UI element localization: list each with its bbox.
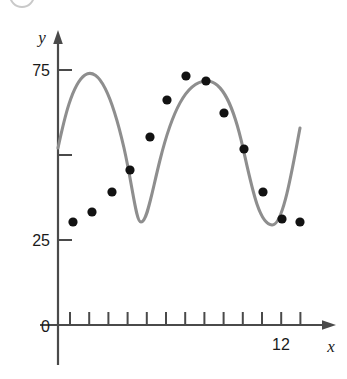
y-tick-label-75: 75 [32,62,50,79]
chart-figure: 75 25 0 12 y x [0,0,347,379]
x-axis-arrowhead-icon [322,320,336,330]
data-point [181,71,190,80]
data-point [239,144,248,153]
data-point [201,76,210,85]
axis-group [40,30,336,365]
scatter-chart-svg: 75 25 0 12 y x [0,0,347,379]
data-point [125,165,134,174]
data-point [107,187,116,196]
x-tick-label-12: 12 [272,336,290,353]
data-point [68,217,77,226]
y-tick-label-0: 0 [41,318,50,335]
corner-artifact-icon [10,0,34,7]
y-axis-label: y [36,28,46,47]
data-point [145,132,154,141]
data-point [219,108,228,117]
data-point [162,95,171,104]
data-point [87,207,96,216]
sinusoidal-model-curve [58,73,300,225]
y-tick-marks [58,70,72,240]
x-tick-marks [70,312,300,325]
x-axis-label: x [326,337,335,356]
data-point [258,187,267,196]
data-point [277,214,286,223]
y-tick-label-25: 25 [32,232,50,249]
y-axis-arrowhead-icon [53,30,63,44]
data-point [295,217,304,226]
